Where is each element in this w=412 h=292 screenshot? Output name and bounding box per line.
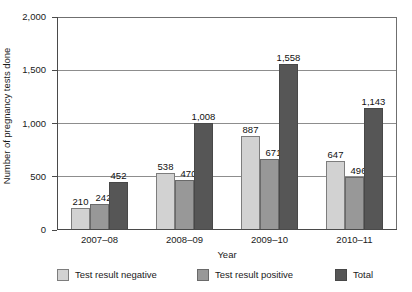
legend-item[interactable]: Test result negative (57, 268, 157, 282)
bar-value-label: 647 (319, 149, 353, 160)
bar (279, 64, 298, 230)
y-axis-tick-label: 1,000 (0, 119, 46, 129)
bar (156, 173, 175, 230)
bar-value-label: 1,008 (187, 111, 221, 122)
legend-swatch-icon (57, 269, 69, 281)
gridline (57, 70, 397, 71)
bar (175, 180, 194, 230)
bar (90, 204, 109, 230)
bar (364, 108, 383, 230)
y-axis-title: Number of pregnancy tests done (0, 0, 14, 232)
y-axis-tick-label: 500 (0, 172, 46, 182)
legend-item[interactable]: Total (335, 268, 373, 282)
plot-area: 2102424525384701,0088876711,5586474961,1… (57, 17, 397, 230)
y-axis-tick-label: 1,500 (0, 65, 46, 75)
plot-right-border (396, 17, 397, 230)
bar (260, 159, 279, 230)
bar (109, 182, 128, 230)
x-axis-title: Year (57, 249, 397, 260)
bar (194, 123, 213, 230)
legend-swatch-icon (335, 269, 347, 281)
bar-value-label: 1,143 (357, 96, 391, 107)
legend-swatch-icon (197, 269, 209, 281)
chart-legend: Test result negativeTest result positive… (57, 268, 402, 284)
x-axis-category-label: 2008–09 (142, 234, 227, 245)
y-axis-tick-label: 0 (0, 225, 46, 235)
x-axis-category-label: 2007–08 (57, 234, 142, 245)
legend-item-label: Test result negative (75, 269, 157, 281)
x-axis-line (57, 229, 397, 230)
bar-chart-figure: Number of pregnancy tests done 210242452… (0, 0, 412, 292)
legend-item-label: Total (353, 269, 373, 281)
gridline (57, 17, 397, 18)
y-axis-tick-label: 2,000 (0, 12, 46, 22)
gridline (57, 123, 397, 124)
legend-item[interactable]: Test result positive (197, 268, 293, 282)
y-axis-line (57, 17, 58, 230)
bar-value-label: 452 (102, 170, 136, 181)
legend-item-label: Test result positive (215, 269, 293, 281)
bar (71, 208, 90, 230)
x-axis-category-label: 2009–10 (227, 234, 312, 245)
bar (345, 177, 364, 230)
bar-value-label: 1,558 (272, 52, 306, 63)
bar-value-label: 887 (234, 124, 268, 135)
x-axis-category-label: 2010–11 (312, 234, 397, 245)
